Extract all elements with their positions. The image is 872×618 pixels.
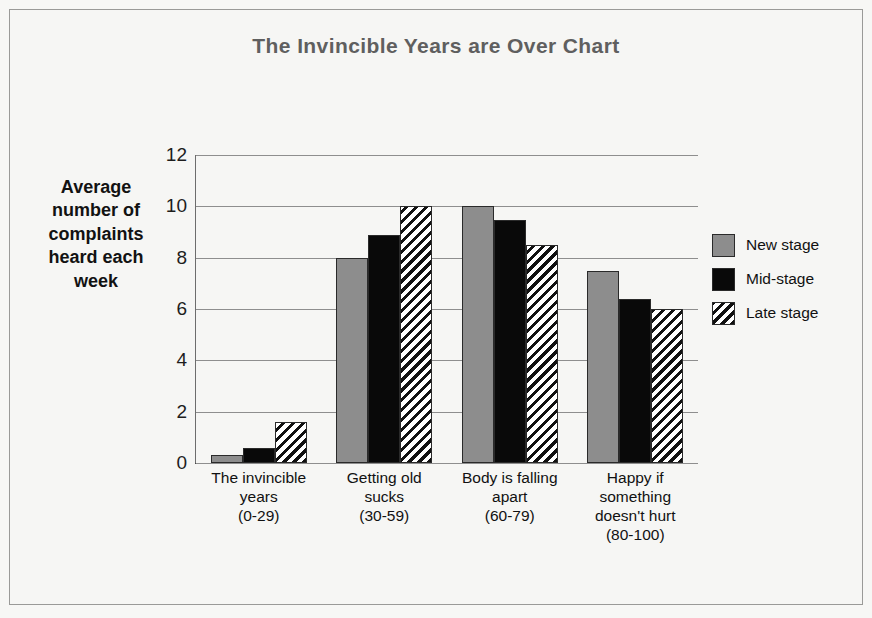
y-axis-title-line: number of xyxy=(26,199,166,222)
category-label-line: apart xyxy=(439,488,581,507)
y-axis-title-line: week xyxy=(26,270,166,293)
y-axis-title-line: Average xyxy=(26,176,166,199)
category-label-line: Happy if xyxy=(565,469,707,488)
bar-new xyxy=(336,258,368,463)
legend-item-mid: Mid-stage xyxy=(712,262,819,296)
bar-new xyxy=(211,455,243,463)
legend-item-new: New stage xyxy=(712,228,819,262)
category-label: Body is fallingapart(60-79) xyxy=(439,469,581,526)
category-label-line: Body is falling xyxy=(439,469,581,488)
y-axis-title-line: heard each xyxy=(26,246,166,269)
category-label-line: (80-100) xyxy=(565,526,707,545)
bar-mid xyxy=(494,220,526,463)
y-tick-label: 12 xyxy=(166,144,187,166)
chart-legend: New stageMid-stageLate stage xyxy=(712,228,819,330)
category-label-line: sucks xyxy=(314,488,456,507)
y-tick-label: 6 xyxy=(176,298,187,320)
category-label-line: (30-59) xyxy=(314,507,456,526)
bar-late xyxy=(275,422,307,463)
y-tick-label: 8 xyxy=(176,247,187,269)
category-label-line: years xyxy=(188,488,330,507)
category-label: The invincibleyears(0-29) xyxy=(188,469,330,526)
category-label-line: Getting old xyxy=(314,469,456,488)
bar-late xyxy=(526,245,558,463)
category-label-line: The invincible xyxy=(188,469,330,488)
legend-label: New stage xyxy=(746,236,819,254)
plot-area: 024681012 The invincibleyears(0-29)Getti… xyxy=(196,155,698,463)
chart-title: The Invincible Years are Over Chart xyxy=(0,34,872,58)
legend-swatch-late-icon xyxy=(712,302,735,325)
y-tick-label: 4 xyxy=(176,349,187,371)
gridline xyxy=(196,258,698,259)
y-tick-label: 0 xyxy=(176,452,187,474)
bar-late xyxy=(400,206,432,463)
bar-new xyxy=(587,271,619,464)
y-axis-title: Averagenumber ofcomplaintsheard eachweek xyxy=(26,176,166,293)
category-label: Getting oldsucks(30-59) xyxy=(314,469,456,526)
y-tick-label: 2 xyxy=(176,401,187,423)
category-label-line: (60-79) xyxy=(439,507,581,526)
category-label: Happy ifsomethingdoesn't hurt(80-100) xyxy=(565,469,707,545)
category-label-line: something xyxy=(565,488,707,507)
gridline xyxy=(196,463,698,464)
bar-mid xyxy=(619,299,651,463)
y-axis-title-line: complaints xyxy=(26,223,166,246)
legend-label: Late stage xyxy=(746,304,818,322)
bar-mid xyxy=(243,448,275,463)
legend-swatch-mid-icon xyxy=(712,268,735,291)
bar-late xyxy=(651,309,683,463)
legend-label: Mid-stage xyxy=(746,270,814,288)
bar-mid xyxy=(368,235,400,463)
category-label-line: (0-29) xyxy=(188,507,330,526)
gridline xyxy=(196,155,698,156)
category-label-line: doesn't hurt xyxy=(565,507,707,526)
y-tick-label: 10 xyxy=(166,195,187,217)
chart-page: The Invincible Years are Over Chart Aver… xyxy=(0,0,872,618)
legend-item-late: Late stage xyxy=(712,296,819,330)
gridline xyxy=(196,206,698,207)
legend-swatch-new-icon xyxy=(712,234,735,257)
bar-new xyxy=(462,206,494,463)
